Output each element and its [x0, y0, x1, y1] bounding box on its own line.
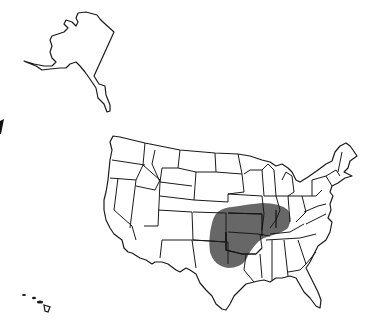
edge-mark	[0, 119, 4, 134]
alaska-outline	[24, 12, 114, 112]
hawaii-islands	[22, 294, 50, 312]
us-map	[0, 0, 372, 321]
